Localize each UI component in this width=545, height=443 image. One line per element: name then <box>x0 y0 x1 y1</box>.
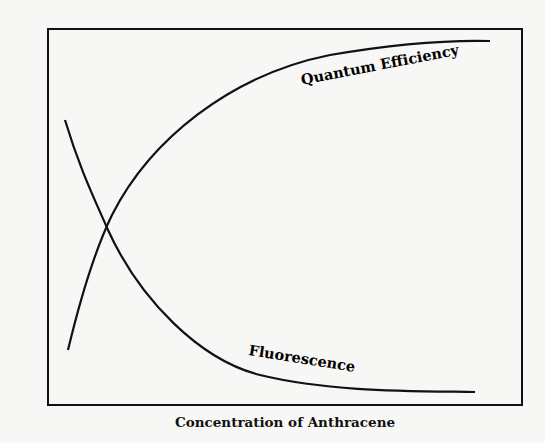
x-axis-label: Concentration of Anthracene <box>48 414 522 430</box>
quantum-efficiency-curve <box>68 41 490 350</box>
chart-plot-area: Quantum Efficiency Fluorescence <box>0 0 545 443</box>
fluorescence-label: Fluorescence <box>248 341 357 375</box>
